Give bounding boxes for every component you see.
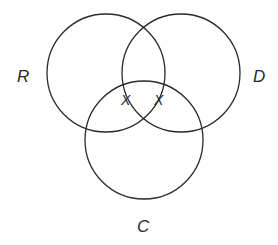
x-mark-r-c: X xyxy=(120,92,131,108)
set-d-label: D xyxy=(253,67,265,86)
set-d-circle xyxy=(122,14,240,132)
set-r-circle xyxy=(47,14,165,132)
venn-diagram: R D C X X xyxy=(0,0,278,245)
x-mark-d-c: X xyxy=(153,92,164,108)
set-c-label: C xyxy=(137,217,150,236)
set-c-circle xyxy=(85,81,203,199)
set-r-label: R xyxy=(17,67,29,86)
